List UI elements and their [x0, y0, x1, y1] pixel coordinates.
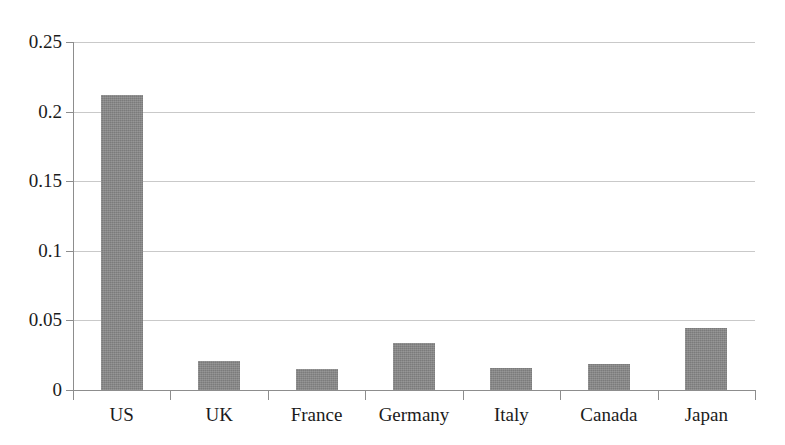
y-tick-label: 0.15 — [0, 171, 62, 190]
bar-japan — [685, 328, 727, 390]
x-tick-label-germany: Germany — [365, 404, 462, 426]
y-tick-mark — [66, 112, 74, 113]
gridline-0.05 — [73, 320, 755, 321]
y-tick-mark — [66, 181, 74, 182]
x-tick-label-us: US — [73, 404, 170, 426]
x-tick-mark — [268, 391, 269, 400]
y-tick-label: 0.25 — [0, 32, 62, 51]
y-tick-mark — [66, 251, 74, 252]
bar-italy — [490, 368, 532, 390]
x-tick-mark — [365, 391, 366, 400]
x-tick-mark — [658, 391, 659, 400]
bar-germany — [393, 343, 435, 390]
x-tick-mark — [170, 391, 171, 400]
x-tick-label-japan: Japan — [658, 404, 755, 426]
x-tick-label-italy: Italy — [463, 404, 560, 426]
gridline-0.15 — [73, 181, 755, 182]
y-tick-label: 0.05 — [0, 310, 62, 329]
bar-chart: 00.050.10.150.20.25 USUKFranceGermanyIta… — [0, 0, 785, 445]
x-tick-label-canada: Canada — [560, 404, 657, 426]
bar-uk — [198, 361, 240, 390]
x-tick-mark — [560, 391, 561, 400]
y-tick-mark — [66, 42, 74, 43]
gridline-0.25 — [73, 42, 755, 43]
y-axis-line — [73, 42, 74, 391]
y-tick-label: 0.1 — [0, 241, 62, 260]
y-tick-label: 0 — [0, 380, 62, 399]
gridline-0.1 — [73, 251, 755, 252]
x-tick-mark — [463, 391, 464, 400]
bar-canada — [588, 364, 630, 390]
y-tick-mark — [66, 320, 74, 321]
bar-france — [296, 369, 338, 390]
bar-us — [101, 95, 143, 390]
plot-area — [73, 42, 755, 390]
gridline-0.2 — [73, 112, 755, 113]
y-tick-label: 0.2 — [0, 102, 62, 121]
x-tick-mark — [73, 391, 74, 400]
x-tick-mark — [755, 391, 756, 400]
x-tick-label-uk: UK — [170, 404, 267, 426]
x-axis-line — [73, 390, 756, 391]
x-tick-label-france: France — [268, 404, 365, 426]
